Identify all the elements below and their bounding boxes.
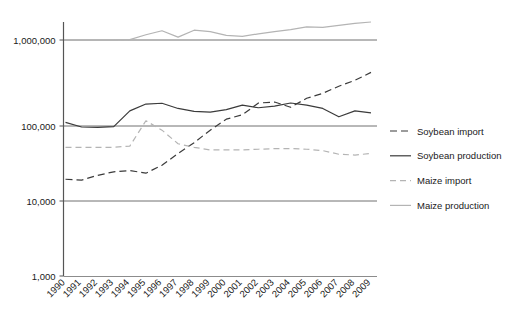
series-line-soybean_production bbox=[66, 103, 372, 127]
gridlines-group bbox=[64, 40, 378, 201]
chart-container: 1,000,000100,00010,0001,000 199019911992… bbox=[0, 0, 520, 322]
y-tick-label: 1,000,000 bbox=[13, 35, 55, 46]
x-axis-ticks: 1990199119921993199419951996199719981999… bbox=[44, 277, 372, 300]
legend-label-maize_import[interactable]: Maize import bbox=[417, 175, 472, 186]
y-tick-label: 100,000 bbox=[21, 121, 55, 132]
series-line-maize_production bbox=[66, 22, 372, 40]
legend-label-soybean_production[interactable]: Soybean production bbox=[417, 150, 502, 161]
y-tick-label: 10,000 bbox=[26, 196, 55, 207]
y-tick-label: 1,000 bbox=[32, 271, 56, 282]
series-group bbox=[66, 22, 372, 180]
y-axis-ticks: 1,000,000100,00010,0001,000 bbox=[13, 35, 63, 282]
svg-text:2009: 2009 bbox=[350, 277, 373, 300]
x-tick-label: 2009 bbox=[350, 277, 373, 300]
legend-label-maize_production[interactable]: Maize production bbox=[417, 200, 489, 211]
legend: Soybean importSoybean productionMaize im… bbox=[390, 126, 502, 211]
line-chart: 1,000,000100,00010,0001,000 199019911992… bbox=[0, 0, 520, 322]
legend-label-soybean_import[interactable]: Soybean import bbox=[417, 126, 484, 137]
